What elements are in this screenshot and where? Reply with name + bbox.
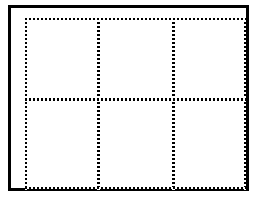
figure-canvas bbox=[0, 0, 257, 203]
solid-rectangle-border bbox=[8, 5, 249, 191]
